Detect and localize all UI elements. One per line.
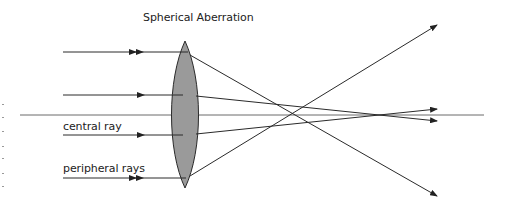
refracted-ray-bottom-peripheral bbox=[190, 25, 437, 176]
refracted-ray-upper-central bbox=[196, 96, 437, 121]
convex-lens-icon bbox=[172, 41, 199, 188]
edge-marks bbox=[2, 104, 4, 187]
refracted-ray-lower-central bbox=[196, 109, 437, 134]
double-arrow-icon bbox=[129, 175, 144, 181]
double-arrow-icon bbox=[129, 49, 144, 55]
arrow-icon bbox=[137, 92, 145, 98]
spherical-aberration-diagram bbox=[0, 0, 506, 216]
arrow-icon bbox=[137, 132, 145, 138]
refracted-ray-top-peripheral bbox=[190, 55, 437, 196]
